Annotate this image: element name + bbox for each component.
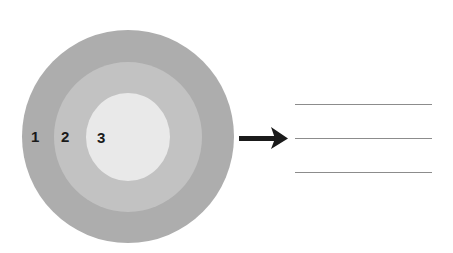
right-arrow-icon (238, 126, 290, 150)
answer-line-1[interactable] (295, 104, 432, 105)
answer-line-3[interactable] (295, 172, 432, 173)
layer-label-2: 2 (61, 129, 69, 144)
answer-line-2[interactable] (295, 138, 432, 139)
layer-label-3: 3 (97, 130, 105, 145)
layer-label-1: 1 (31, 129, 39, 144)
